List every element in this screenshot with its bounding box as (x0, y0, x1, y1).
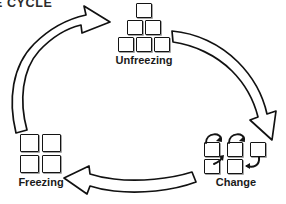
arrow-change-to-freezing (64, 166, 196, 194)
stage-label-unfreezing: Unfreezing (108, 54, 180, 67)
icon-square (20, 155, 39, 173)
change-cycle-diagram: NGE CYCLE Unfreezing Freezing (0, 0, 286, 204)
icon-square (136, 3, 152, 18)
icon-square (136, 37, 152, 52)
stage-label-freezing: Freezing (2, 176, 80, 189)
stage-unfreezing: Unfreezing (108, 2, 180, 67)
icon-square (145, 20, 161, 35)
icon-square (20, 134, 39, 152)
icon-square (42, 134, 61, 152)
arrow-unfreezing-to-change (172, 31, 276, 140)
icon-square (127, 20, 143, 35)
stage-freezing: Freezing (2, 134, 80, 189)
pyramid-squares-icon (108, 2, 180, 52)
rearranging-squares-icon (201, 130, 271, 174)
swap-arrows-icon (201, 130, 271, 174)
grid-squares-icon (19, 134, 63, 174)
arrow-freezing-to-unfreezing (12, 6, 110, 133)
stage-change: Change (196, 130, 276, 189)
stage-label-change: Change (196, 176, 276, 189)
icon-square (118, 37, 134, 52)
icon-square (42, 155, 61, 173)
icon-square (154, 37, 170, 52)
